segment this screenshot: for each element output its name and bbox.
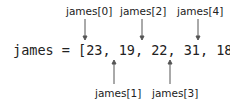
label-james-3: james[3] [152, 87, 198, 99]
label-james-0: james[0] [66, 5, 112, 17]
arrowhead-james-0 [83, 36, 87, 40]
arrowhead-james-4 [196, 36, 200, 40]
arrowhead-james-1 [112, 60, 116, 64]
arrowhead-james-2 [140, 36, 144, 40]
label-james-4: james[4] [177, 5, 223, 17]
arrowhead-james-3 [168, 60, 172, 64]
label-james-1: james[1] [95, 87, 141, 99]
label-james-2: james[2] [120, 5, 166, 17]
list-expression: james = [23, 19, 22, 31, 18] [13, 42, 230, 58]
